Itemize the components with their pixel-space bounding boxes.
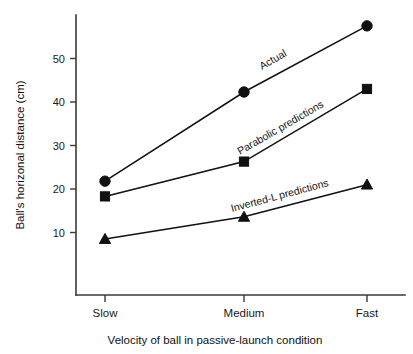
line-chart: Ball's horizonal distance (cm) 10 20 30 … bbox=[0, 0, 413, 354]
x-tick-fast: Fast bbox=[356, 295, 379, 319]
data-point-circle bbox=[362, 21, 372, 31]
series-line bbox=[105, 89, 367, 196]
y-tick-40: 40 bbox=[53, 96, 76, 108]
y-axis-title: Ball's horizonal distance (cm) bbox=[14, 80, 26, 229]
y-tick-label: 10 bbox=[53, 227, 65, 239]
series-label-layer: ActualParabolic predictionsInverted-L pr… bbox=[229, 47, 329, 214]
series-1 bbox=[100, 21, 372, 187]
y-tick-label: 30 bbox=[53, 140, 65, 152]
series-2 bbox=[100, 84, 371, 201]
x-tick-label: Slow bbox=[93, 307, 119, 319]
x-tick-label: Medium bbox=[224, 307, 265, 319]
data-point-square bbox=[100, 192, 109, 201]
series-line bbox=[105, 26, 367, 181]
data-point-square bbox=[239, 157, 248, 166]
series-label-2: Parabolic predictions bbox=[235, 98, 325, 157]
chart-container: Ball's horizonal distance (cm) 10 20 30 … bbox=[0, 0, 413, 354]
y-tick-10: 10 bbox=[53, 227, 76, 239]
y-ticks: 10 20 30 40 50 bbox=[53, 53, 76, 239]
data-point-square bbox=[362, 84, 371, 93]
y-tick-50: 50 bbox=[53, 53, 76, 65]
y-tick-label: 40 bbox=[53, 96, 65, 108]
y-tick-20: 20 bbox=[53, 183, 76, 195]
series-label-1: Actual bbox=[257, 47, 288, 72]
x-axis-title: Velocity of ball in passive-launch condi… bbox=[108, 334, 323, 346]
y-tick-label: 20 bbox=[53, 183, 65, 195]
data-point-triangle bbox=[361, 179, 372, 189]
x-ticks: Slow Medium Fast bbox=[93, 295, 379, 319]
data-point-circle bbox=[239, 87, 249, 97]
x-tick-label: Fast bbox=[356, 307, 379, 319]
data-point-circle bbox=[100, 176, 110, 186]
x-tick-slow: Slow bbox=[93, 295, 119, 319]
y-tick-label: 50 bbox=[53, 53, 65, 65]
x-tick-medium: Medium bbox=[224, 295, 265, 319]
y-tick-30: 30 bbox=[53, 140, 76, 152]
